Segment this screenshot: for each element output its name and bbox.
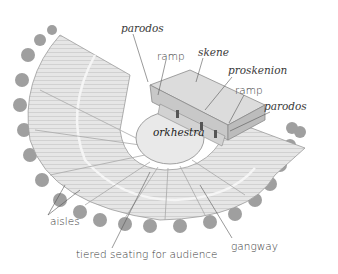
label-skene: skene (198, 47, 229, 58)
label-proskenion: proskenion (228, 65, 287, 76)
label-aisles: aisles (50, 216, 80, 227)
label-tiered-seating: tiered seating for audience (76, 249, 218, 260)
label-orkhestra: orkhestra (153, 127, 205, 138)
label-ramp-right: ramp (235, 85, 263, 96)
label-parodos-right: parodos (264, 101, 307, 112)
label-ramp-left: ramp (157, 51, 185, 62)
label-parodos-left: parodos (121, 23, 164, 34)
label-gangway: gangway (231, 241, 278, 252)
greek-theater-diagram: parodos ramp skene proskenion ramp parod… (0, 0, 338, 274)
